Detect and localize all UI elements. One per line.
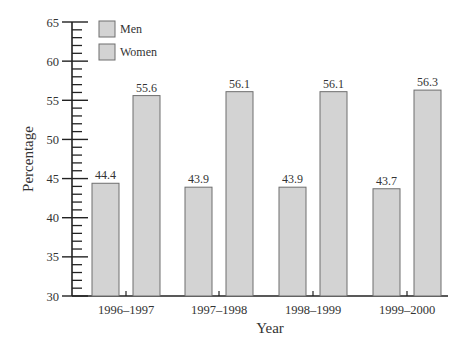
legend-swatch-women (99, 44, 115, 60)
data-label: 43.9 (282, 172, 303, 186)
legend-label: Women (120, 45, 157, 59)
x-tick-label: 1998–1999 (285, 303, 341, 317)
bar-chart: 3035404550556065 1996–19971997–19981998–… (0, 0, 472, 344)
y-axis-label: Percentage (20, 126, 36, 192)
y-tick-label: 45 (47, 172, 60, 186)
y-axis: 3035404550556065 (47, 16, 89, 304)
y-tick-label: 35 (47, 250, 60, 264)
bar-women (320, 92, 347, 296)
bar-men (373, 189, 400, 296)
x-axis-label: Year (256, 320, 284, 336)
legend-label: Men (120, 22, 142, 36)
y-tick-label: 60 (47, 55, 60, 69)
x-tick-label: 1996–1997 (98, 303, 154, 317)
data-label: 56.3 (417, 75, 438, 89)
x-tick-label: 1999–2000 (379, 303, 435, 317)
bar-men (279, 187, 306, 296)
x-tick-label: 1997–1998 (191, 303, 247, 317)
y-tick-label: 50 (47, 133, 60, 147)
bars: 44.455.643.956.143.956.143.756.3 (92, 75, 441, 296)
data-label: 43.7 (376, 174, 397, 188)
y-tick-label: 65 (47, 16, 60, 30)
data-label: 56.1 (229, 77, 250, 91)
data-label: 56.1 (323, 77, 344, 91)
data-label: 55.6 (136, 81, 157, 95)
bar-women (133, 96, 160, 296)
legend-swatch-men (99, 21, 115, 37)
y-tick-label: 40 (47, 211, 60, 225)
bar-women (226, 92, 253, 296)
data-label: 44.4 (95, 168, 116, 182)
y-tick-label: 55 (47, 94, 60, 108)
data-label: 43.9 (188, 172, 209, 186)
y-tick-label: 30 (47, 290, 60, 304)
legend: MenWomen (99, 21, 157, 60)
bar-men (92, 183, 119, 296)
bar-men (185, 187, 212, 296)
bar-women (414, 90, 441, 296)
